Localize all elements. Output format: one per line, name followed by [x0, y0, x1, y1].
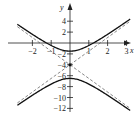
y-tick-label: −8: [57, 83, 66, 92]
y-tick-label: −10: [53, 94, 66, 103]
y-axis-label: y: [59, 3, 64, 12]
y-tick-label: 4: [62, 17, 66, 26]
x-axis-arrow-icon: [124, 41, 131, 46]
x-tick-label: 1: [87, 47, 91, 56]
y-tick-label: −4: [57, 61, 66, 70]
y-tick-label: −12: [53, 104, 66, 113]
center-point: [68, 63, 71, 66]
asymptote-line: [17, 27, 130, 109]
hyperbola-plot: x y −2−1123 42−2−4−6−8−10−12: [0, 0, 136, 118]
x-axis-label: x: [129, 46, 134, 55]
curves: [17, 19, 130, 110]
x-tick-label: 2: [106, 47, 110, 56]
asymptote-line: [17, 21, 130, 103]
x-tick-label: −2: [28, 47, 37, 56]
x-tick-label: 3: [124, 47, 128, 56]
hyperbola-lower-branch: [17, 78, 130, 110]
y-axis-arrow-icon: [68, 3, 73, 10]
y-tick-label: 2: [62, 28, 66, 37]
x-ticks: −2−1123: [28, 40, 128, 56]
